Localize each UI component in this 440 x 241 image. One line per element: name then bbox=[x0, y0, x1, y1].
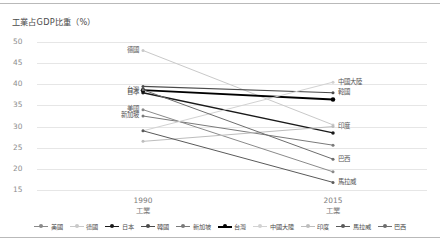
legend-label: 中國大陸 bbox=[270, 222, 294, 231]
legend-item-印度[interactable]: 印度 bbox=[301, 222, 330, 231]
legend-marker-icon bbox=[218, 223, 232, 230]
data-point-中國大陸-2015 bbox=[332, 81, 335, 84]
data-point-馬拉威-2015 bbox=[332, 181, 335, 184]
top-divider bbox=[0, 3, 440, 4]
data-point-巴西-1990 bbox=[142, 88, 145, 91]
data-point-印度-2015 bbox=[332, 125, 335, 128]
series-lines bbox=[13, 32, 427, 200]
x-tick-year: 2015 bbox=[273, 196, 393, 206]
legend-label: 巴西 bbox=[394, 222, 406, 231]
slide-canvas: 工業占GDP比重（%） 5045403530252015 德國台灣日本美國新加坡… bbox=[0, 0, 440, 241]
point-label-left-德國: 德國 bbox=[127, 47, 139, 54]
legend-label: 印度 bbox=[317, 222, 329, 231]
legend-label: 馬拉威 bbox=[353, 222, 371, 231]
legend-marker-icon bbox=[378, 223, 392, 230]
data-point-德國-1990 bbox=[142, 49, 145, 52]
x-axis-category-2015: 2015工業 bbox=[273, 196, 393, 215]
bottom-divider bbox=[0, 237, 440, 238]
data-point-新加坡-2015 bbox=[332, 144, 335, 147]
point-label-right-韓國: 韓國 bbox=[338, 89, 350, 96]
legend-marker-icon bbox=[336, 223, 350, 230]
point-label-right-馬拉威: 馬拉威 bbox=[338, 179, 356, 186]
x-axis-category-1990: 1990工業 bbox=[83, 196, 203, 215]
legend-label: 台灣 bbox=[234, 222, 246, 231]
legend-item-新加坡[interactable]: 新加坡 bbox=[176, 222, 211, 231]
data-point-印度-1990 bbox=[142, 140, 145, 143]
data-point-巴西-2015 bbox=[332, 158, 335, 161]
legend-item-馬拉威[interactable]: 馬拉威 bbox=[336, 222, 371, 231]
plot-area: 5045403530252015 德國台灣日本美國新加坡中國大陸韓國巴西印度馬拉… bbox=[13, 32, 427, 200]
legend-item-巴西[interactable]: 巴西 bbox=[378, 222, 407, 231]
x-tick-sector: 工業 bbox=[83, 206, 203, 216]
legend-marker-icon bbox=[105, 223, 119, 230]
legend-label: 日本 bbox=[122, 222, 134, 231]
point-label-left-日本: 日本 bbox=[127, 89, 139, 96]
data-point-美國-1990 bbox=[142, 108, 145, 111]
series-line-印度 bbox=[143, 127, 333, 142]
legend-label: 新加坡 bbox=[193, 222, 211, 231]
data-point-韓國-1990 bbox=[142, 85, 145, 88]
data-point-馬拉威-1990 bbox=[142, 129, 145, 132]
chart-title: 工業占GDP比重（%） bbox=[12, 15, 96, 27]
legend-marker-icon bbox=[253, 223, 267, 230]
point-label-right-巴西: 巴西 bbox=[338, 156, 350, 163]
chart-legend: 美國德國日本韓國新加坡台灣中國大陸印度馬拉威巴西 bbox=[0, 222, 440, 231]
point-label-right-印度: 印度 bbox=[338, 123, 350, 130]
legend-item-德國[interactable]: 德國 bbox=[70, 222, 99, 231]
legend-marker-icon bbox=[141, 223, 155, 230]
legend-marker-icon bbox=[34, 223, 48, 230]
data-point-韓國-2015 bbox=[332, 91, 335, 94]
data-point-日本-2015 bbox=[331, 131, 335, 135]
x-tick-year: 1990 bbox=[83, 196, 203, 206]
legend-label: 韓國 bbox=[157, 222, 169, 231]
series-line-巴西 bbox=[143, 90, 333, 159]
legend-marker-icon bbox=[70, 223, 84, 230]
legend-marker-icon bbox=[301, 223, 315, 230]
legend-item-韓國[interactable]: 韓國 bbox=[141, 222, 170, 231]
legend-label: 德國 bbox=[86, 222, 98, 231]
legend-item-美國[interactable]: 美國 bbox=[34, 222, 63, 231]
point-label-left-新加坡: 新加坡 bbox=[121, 112, 139, 119]
data-point-新加坡-1990 bbox=[142, 115, 145, 118]
data-point-美國-2015 bbox=[332, 170, 335, 173]
legend-item-台灣[interactable]: 台灣 bbox=[218, 222, 247, 231]
x-tick-sector: 工業 bbox=[273, 206, 393, 216]
series-line-馬拉威 bbox=[143, 131, 333, 183]
legend-marker-icon bbox=[176, 223, 190, 230]
legend-item-中國大陸[interactable]: 中國大陸 bbox=[253, 222, 294, 231]
legend-item-日本[interactable]: 日本 bbox=[105, 222, 134, 231]
legend-label: 美國 bbox=[51, 222, 63, 231]
point-label-right-中國大陸: 中國大陸 bbox=[338, 79, 362, 86]
data-point-台灣-2015 bbox=[331, 97, 336, 102]
